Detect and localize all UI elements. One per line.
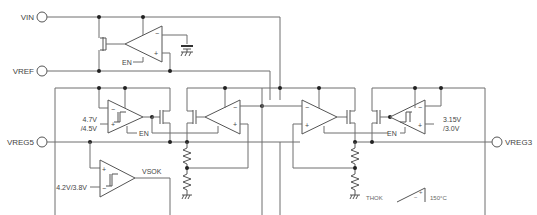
vref-regulator: − + EN (47, 15, 280, 100)
vsok-label: VSOK (142, 168, 162, 175)
pin-vreg5: VREG5 (7, 137, 47, 147)
ldo5-comparator: − + 4.7V /4.5V EN (81, 86, 154, 137)
pin-vreg3: VREG3 (492, 137, 533, 147)
ldo3-ea-minus: − (305, 104, 309, 111)
pin-vref-label: VREF (13, 67, 34, 76)
ldo5-pass-fets (152, 108, 205, 142)
vref-amp-minus: − (155, 30, 159, 37)
pin-vref: VREF (13, 66, 47, 76)
thok-label: THOK (366, 195, 383, 201)
ldo5-threshold-lo: /4.5V (81, 125, 98, 132)
thermal-comp-minus: − (414, 194, 418, 200)
ldo3-ea-plus: + (305, 122, 309, 129)
vsok-comp-plus: + (102, 166, 106, 173)
ldo3-feedback-divider (350, 142, 360, 199)
ldo5-en-label: EN (139, 130, 149, 137)
resistor-icon (351, 168, 359, 195)
thermal-comp-plus: + (419, 189, 423, 195)
vreg3-rail (353, 140, 492, 144)
thermal-shutdown: THOK − + 150°C (366, 188, 447, 202)
ldo5-ea-plus: + (233, 121, 237, 128)
pin-vin: VIN (21, 12, 47, 22)
ldo5-feedback-divider (182, 142, 192, 199)
ldo3-error-amp: − + (262, 86, 388, 168)
vsok-comp-minus: − (102, 185, 106, 192)
vsok-comparator: + − 4.2V/3.8V VSOK (56, 142, 170, 215)
pin-vreg3-label: VREG3 (505, 138, 533, 147)
ldo3-comp-plus: + (418, 122, 422, 129)
pin-vreg5-label: VREG5 (7, 138, 35, 147)
capacitor-ground-icon (181, 46, 193, 56)
ldo5-threshold-hi: 4.7V (83, 116, 98, 123)
ground-icon (350, 195, 360, 199)
vref-en-label: EN (122, 59, 132, 66)
resistor-icon (183, 142, 191, 168)
ldo3-en-label: EN (387, 130, 397, 137)
ldo3-threshold-hi: 3.15V (443, 116, 462, 123)
ldo3-pass-fets (347, 108, 392, 142)
ldo3-comp-minus: − (418, 104, 422, 111)
vsok-threshold: 4.2V/3.8V (56, 184, 87, 191)
ldo3-comparator: − + 3.15V /3.0V EN (387, 86, 462, 137)
resistor-icon (183, 168, 191, 195)
ldo5-comp-minus: − (111, 106, 115, 113)
thermal-threshold: 150°C (430, 195, 447, 201)
ground-icon (182, 195, 192, 199)
ldo5-ea-minus: − (233, 104, 237, 111)
vref-amp-plus: + (154, 50, 158, 57)
resistor-icon (351, 142, 359, 168)
circuit-schematic: VIN VREF VREG5 VREG3 − + (0, 0, 537, 215)
vreg5-section-frame (55, 88, 280, 215)
ldo3-threshold-lo: /3.0V (443, 125, 460, 132)
pin-vin-label: VIN (21, 13, 35, 22)
vreg5-bus (262, 88, 280, 215)
